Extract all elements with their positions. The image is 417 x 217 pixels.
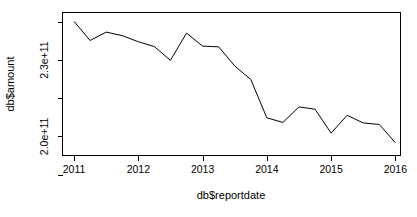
x-tick-label: 2012 — [127, 163, 151, 175]
x-tick-label: 2014 — [255, 163, 279, 175]
y-tick-label: 2.0e+11 — [38, 118, 50, 156]
x-tick-label: 2011 — [63, 163, 86, 175]
r-plot-window: 2.3e+112.0e+11 201120122013201420152016 … — [0, 0, 417, 217]
x-axis-title: db$reportdate — [197, 189, 266, 201]
y-tick-label: 2.3e+11 — [38, 41, 50, 79]
line-chart: 2.3e+112.0e+11 201120122013201420152016 … — [0, 0, 417, 217]
x-tick-label: 2016 — [384, 163, 408, 175]
x-tick-label: 2015 — [319, 163, 343, 175]
y-axis-title: db$amount — [4, 56, 16, 111]
x-tick-label: 2013 — [191, 163, 215, 175]
